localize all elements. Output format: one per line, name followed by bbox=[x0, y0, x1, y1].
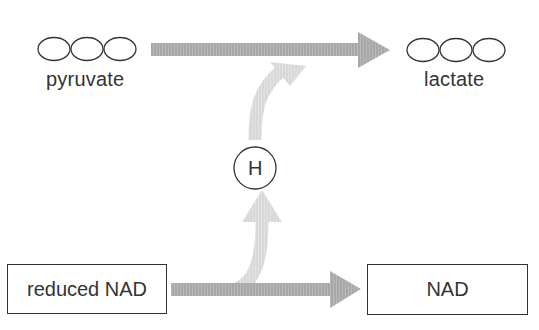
hydrogen-label: H bbox=[248, 157, 263, 180]
nad-box: NAD bbox=[367, 264, 528, 315]
reduced-nad-label: reduced NAD bbox=[27, 278, 147, 301]
pyruvate-label: pyruvate bbox=[46, 68, 124, 91]
reduced-nad-to-nad-arrow bbox=[171, 271, 361, 308]
lactate-molecule-icon bbox=[407, 39, 505, 62]
reduced-nad-box: reduced NAD bbox=[7, 264, 167, 314]
lactate-label: lactate bbox=[424, 68, 484, 91]
nad-label: NAD bbox=[426, 278, 468, 301]
pyruvate-molecule-icon bbox=[38, 38, 136, 61]
